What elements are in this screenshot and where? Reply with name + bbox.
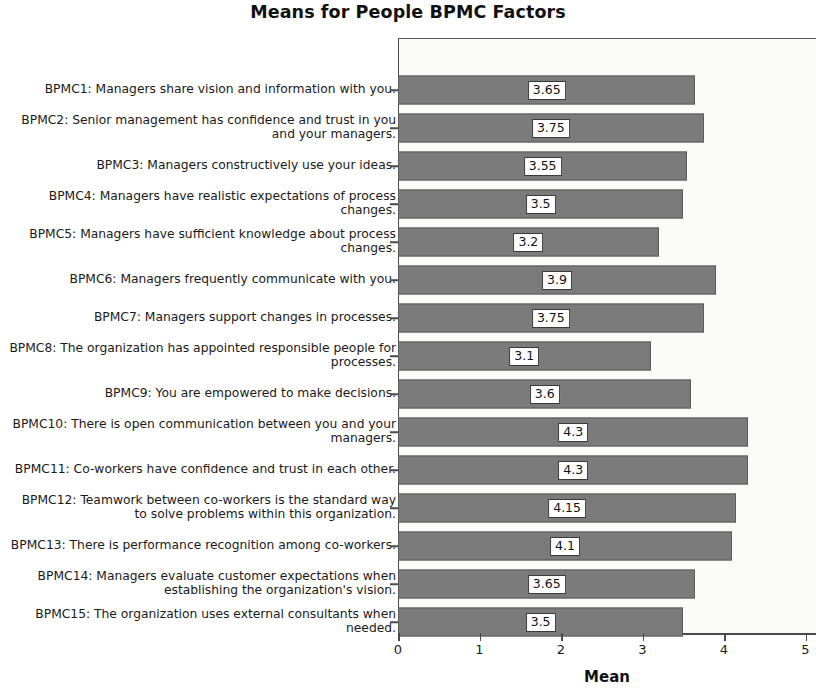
category-tick-mark [390,89,398,91]
category-label: BPMC2: Senior management has confidence … [6,114,396,141]
x-tick-label: 0 [394,642,402,657]
category-label: BPMC3: Managers constructively use your … [6,159,396,173]
bar-value-label: 4.3 [558,461,588,480]
x-tick-label: 2 [557,642,565,657]
x-axis-title: Mean [398,668,816,686]
chart-category-row: BPMC12: Teamwork between co-workers is t… [0,489,816,527]
bar-track: 3.55 [398,152,806,181]
bar-value-label: 3.75 [532,119,570,138]
category-tick-mark [390,203,398,205]
chart-category-row: BPMC5: Managers have sufficient knowledg… [0,223,816,261]
bar-value-label: 3.65 [528,81,566,100]
bar-value-label: 3.5 [526,195,556,214]
x-tick-label: 5 [801,642,809,657]
bar-value-label: 3.55 [524,157,562,176]
category-label: BPMC15: The organization uses external c… [6,608,396,635]
category-rows: BPMC1: Managers share vision and informa… [0,38,816,634]
category-tick-mark [390,431,398,433]
category-label: BPMC9: You are empowered to make decisio… [6,387,396,401]
chart-title: Means for People BPMC Factors [0,2,816,22]
bar-track: 3.9 [398,266,806,295]
category-label: BPMC13: There is performance recognition… [6,539,396,553]
category-label: BPMC6: Managers frequently communicate w… [6,273,396,287]
bar-value-label: 3.6 [530,385,560,404]
category-label: BPMC1: Managers share vision and informa… [6,83,396,97]
bar-value-label: 3.5 [526,613,556,632]
x-axis-ticks: 012345 [0,633,816,663]
chart-category-row: BPMC11: Co-workers have confidence and t… [0,451,816,489]
bar-value-label: 3.2 [513,233,543,252]
x-tick-mark [806,633,808,641]
bar-value-label: 4.1 [550,537,580,556]
x-tick-mark [398,633,400,641]
bar-value-label: 4.15 [548,499,586,518]
x-tick-mark [480,633,482,641]
category-label: BPMC5: Managers have sufficient knowledg… [6,228,396,255]
bar-track: 4.1 [398,532,806,561]
category-tick-mark [390,507,398,509]
category-tick-mark [390,393,398,395]
x-tick-label: 4 [720,642,728,657]
category-label: BPMC7: Managers support changes in proce… [6,311,396,325]
category-tick-mark [390,279,398,281]
chart-category-row: BPMC6: Managers frequently communicate w… [0,261,816,299]
bar-track: 3.75 [398,114,806,143]
x-tick-label: 3 [638,642,646,657]
category-tick-mark [390,583,398,585]
category-label: BPMC4: Managers have realistic expectati… [6,190,396,217]
category-tick-mark [390,355,398,357]
chart-category-row: BPMC1: Managers share vision and informa… [0,71,816,109]
chart-category-row: BPMC10: There is open communication betw… [0,413,816,451]
category-label: BPMC10: There is open communication betw… [6,418,396,445]
category-label: BPMC12: Teamwork between co-workers is t… [6,494,396,521]
category-tick-mark [390,127,398,129]
chart-category-row: BPMC13: There is performance recognition… [0,527,816,565]
category-label: BPMC14: Managers evaluate customer expec… [6,570,396,597]
bar-track: 3.5 [398,190,806,219]
bar-value-label: 3.9 [542,271,572,290]
bar-value-label: 3.1 [509,347,539,366]
chart-category-row: BPMC3: Managers constructively use your … [0,147,816,185]
bar-value-label: 3.65 [528,575,566,594]
bar-track: 3.1 [398,342,806,371]
chart-category-row: BPMC7: Managers support changes in proce… [0,299,816,337]
x-tick-mark [724,633,726,641]
bar-track: 3.75 [398,304,806,333]
category-label: BPMC8: The organization has appointed re… [6,342,396,369]
bar-track: 3.65 [398,570,806,599]
category-tick-mark [390,317,398,319]
x-tick-mark [561,633,563,641]
chart-category-row: BPMC9: You are empowered to make decisio… [0,375,816,413]
chart-category-row: BPMC4: Managers have realistic expectati… [0,185,816,223]
bar-track: 3.2 [398,228,806,257]
bar-track: 3.6 [398,380,806,409]
bar-value-label: 4.3 [558,423,588,442]
category-tick-mark [390,621,398,623]
chart-category-row: BPMC2: Senior management has confidence … [0,109,816,147]
x-tick-label: 1 [475,642,483,657]
bar-chart: Means for People BPMC Factors BPMC1: Man… [0,0,816,699]
chart-category-row: BPMC14: Managers evaluate customer expec… [0,565,816,603]
category-tick-mark [390,241,398,243]
category-label: BPMC11: Co-workers have confidence and t… [6,463,396,477]
category-tick-mark [390,469,398,471]
bar-track: 4.3 [398,418,806,447]
x-tick-mark [643,633,645,641]
bar-value-label: 3.75 [532,309,570,328]
category-tick-mark [390,165,398,167]
bar-track: 3.65 [398,76,806,105]
chart-category-row: BPMC8: The organization has appointed re… [0,337,816,375]
bar-track: 4.3 [398,456,806,485]
bar-track: 4.15 [398,494,806,523]
category-tick-mark [390,545,398,547]
